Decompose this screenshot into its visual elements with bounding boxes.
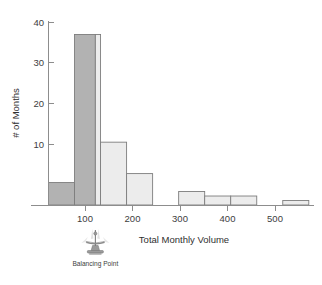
bars-group xyxy=(49,34,309,205)
y-tick-label-40: 40 xyxy=(33,17,44,28)
chart-canvas: 40 30 20 10 # of Months 100 200 300 400 … xyxy=(0,0,322,285)
fulcrum-icon xyxy=(81,229,109,255)
bar-bin-300-350 xyxy=(179,192,205,205)
x-tick-label-300: 300 xyxy=(172,213,188,224)
balancing-point-annotation: Balancing Point xyxy=(72,229,118,268)
balancing-point-label: Balancing Point xyxy=(72,260,118,268)
y-axis-title: # of Months xyxy=(10,88,21,138)
bar-bin-200-250 xyxy=(127,174,153,205)
x-tick-label-200: 200 xyxy=(125,213,141,224)
bar-bin-50-100 xyxy=(49,183,75,205)
y-tick-label-10: 10 xyxy=(33,139,44,150)
x-tick-label-100: 100 xyxy=(77,213,93,224)
y-tick-label-30: 30 xyxy=(33,57,44,68)
y-tick-label-20: 20 xyxy=(33,98,44,109)
x-axis-title: Total Monthly Volume xyxy=(139,234,229,245)
x-tick-label-400: 400 xyxy=(220,213,236,224)
fulcrum-base xyxy=(87,251,103,254)
bar-bin-500-550 xyxy=(283,201,309,205)
y-axis: 40 30 20 10 # of Months xyxy=(10,17,54,206)
bar-bin-350-400 xyxy=(205,196,231,205)
bar-bin-100-150-dark xyxy=(75,34,96,205)
bar-bin-150-200 xyxy=(101,142,127,205)
x-tick-label-500: 500 xyxy=(267,213,283,224)
bar-bin-400-450 xyxy=(231,196,257,205)
histogram-chart: 40 30 20 10 # of Months 100 200 300 400 … xyxy=(0,0,322,285)
bar-bin-100-150-light xyxy=(95,34,100,205)
fulcrum-knob xyxy=(94,232,97,235)
fulcrum-base-shadow xyxy=(89,253,101,255)
fulcrum-pedestal xyxy=(91,246,99,251)
x-axis: 100 200 300 400 500 Total Monthly Volume xyxy=(31,206,314,246)
